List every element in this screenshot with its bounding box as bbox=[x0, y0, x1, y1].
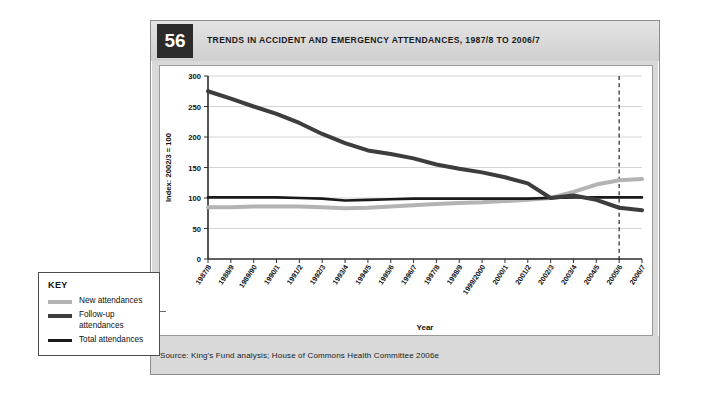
legend-swatch-total-attendances bbox=[48, 339, 72, 342]
legend-label-followup-attendances: Follow-up attendances bbox=[79, 310, 151, 331]
x-axis-title: Year bbox=[417, 323, 434, 332]
y-tick-label: 250 bbox=[188, 103, 201, 112]
y-axis-title: Index: 2002/3 = 100 bbox=[164, 133, 173, 202]
source-strip: Source: King's Fund analysis; House of C… bbox=[151, 336, 659, 374]
x-tick-label: 1988/9 bbox=[216, 263, 236, 286]
x-tick-label: 1998/9 bbox=[445, 263, 465, 286]
legend-item-followup-attendances: Follow-up attendances bbox=[48, 310, 151, 331]
line-chart: 0501001502002503001987/81988/91989/90199… bbox=[160, 66, 652, 335]
x-tick-label: 2005/6 bbox=[605, 263, 625, 286]
y-tick-label: 200 bbox=[188, 133, 201, 142]
figure-title: TRENDS IN ACCIDENT AND EMERGENCY ATTENDA… bbox=[207, 36, 540, 45]
legend-swatch-new-attendances bbox=[48, 300, 72, 304]
legend-swatch-followup-attendances bbox=[48, 314, 72, 318]
x-tick-label: 2004/5 bbox=[582, 263, 602, 286]
x-tick-label: 2000/1 bbox=[490, 263, 510, 286]
x-tick-label: 1993/4 bbox=[330, 263, 350, 286]
y-tick-label: 100 bbox=[188, 194, 201, 203]
y-tick-label: 300 bbox=[188, 72, 201, 81]
series-line bbox=[208, 179, 642, 208]
x-tick-label: 1987/8 bbox=[193, 263, 213, 286]
x-tick-label: 1992/3 bbox=[308, 263, 328, 286]
x-tick-label: 2003/4 bbox=[559, 263, 579, 286]
legend-label-new-attendances: New attendances bbox=[79, 296, 142, 306]
key-title: KEY bbox=[48, 280, 151, 290]
chart-legend-key: KEY New attendances Follow-up attendance… bbox=[38, 272, 160, 356]
y-tick-label: 0 bbox=[197, 255, 201, 264]
x-tick-label: 1995/6 bbox=[376, 263, 396, 286]
legend-item-new-attendances: New attendances bbox=[48, 296, 151, 306]
x-tick-label: 1994/5 bbox=[353, 263, 373, 286]
legend-item-total-attendances: Total attendances bbox=[48, 335, 151, 345]
x-tick-label: 2002/3 bbox=[536, 263, 556, 286]
figure-header: 56 TRENDS IN ACCIDENT AND EMERGENCY ATTE… bbox=[151, 21, 659, 61]
chart-plot-panel: 0501001502002503001987/81988/91989/90199… bbox=[159, 65, 653, 336]
x-tick-label: 1999/2000 bbox=[461, 263, 487, 296]
x-tick-label: 1996/7 bbox=[399, 263, 419, 286]
y-tick-label: 150 bbox=[188, 164, 201, 173]
y-tick-label: 50 bbox=[193, 225, 201, 234]
x-tick-label: 1991/2 bbox=[285, 263, 305, 286]
x-tick-label: 2006/7 bbox=[627, 263, 647, 286]
figure-number-badge: 56 bbox=[157, 24, 193, 58]
figure-card: 56 TRENDS IN ACCIDENT AND EMERGENCY ATTE… bbox=[150, 20, 660, 375]
x-tick-label: 1989/90 bbox=[237, 263, 259, 290]
legend-label-total-attendances: Total attendances bbox=[79, 335, 143, 345]
x-tick-label: 1990/1 bbox=[262, 263, 282, 286]
x-tick-label: 2001/2 bbox=[513, 263, 533, 286]
x-tick-label: 1997/8 bbox=[422, 263, 442, 286]
source-text: Source: King's Fund analysis; House of C… bbox=[160, 351, 439, 360]
